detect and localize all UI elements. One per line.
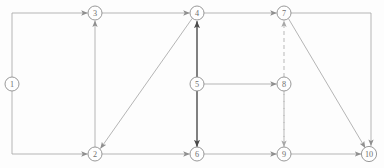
node-8[interactable]: 8: [277, 77, 291, 91]
node-5[interactable]: 5: [190, 77, 204, 91]
edge-1-to-3: [12, 13, 88, 77]
graph-svg: 1 2 3 4 5 6 7 8: [0, 0, 384, 168]
node-4-label: 4: [195, 9, 199, 18]
node-7[interactable]: 7: [277, 6, 291, 20]
edge-7-to-10-orthogonal: [291, 13, 371, 146]
node-3[interactable]: 3: [88, 6, 102, 20]
node-2[interactable]: 2: [88, 147, 102, 161]
node-10-label: 10: [365, 150, 373, 159]
node-10[interactable]: 10: [361, 146, 376, 161]
node-1-label: 1: [10, 80, 14, 89]
node-8-label: 8: [282, 80, 286, 89]
node-1[interactable]: 1: [5, 77, 19, 91]
node-9-label: 9: [282, 150, 286, 159]
edge-7-to-10-diagonal: [289, 19, 366, 148]
node-3-label: 3: [93, 9, 97, 18]
node-6-label: 6: [195, 150, 199, 159]
node-9[interactable]: 9: [277, 147, 291, 161]
diagram-canvas: 1 2 3 4 5 6 7 8: [0, 0, 384, 168]
node-7-label: 7: [282, 9, 286, 18]
node-4[interactable]: 4: [190, 6, 204, 20]
node-6[interactable]: 6: [190, 147, 204, 161]
edge-4-to-2: [100, 18, 192, 148]
node-2-label: 2: [93, 150, 97, 159]
node-5-label: 5: [195, 80, 199, 89]
edge-1-to-2: [12, 91, 88, 154]
